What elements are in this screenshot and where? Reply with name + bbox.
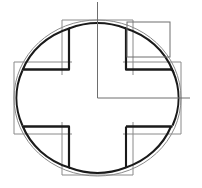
inner-circle-left-arc <box>17 71 23 126</box>
technical-drawing-canvas <box>0 0 202 188</box>
inner-circle-bottom-arc <box>69 168 126 173</box>
outer-cross-bottom-arm <box>62 122 133 175</box>
outer-cross-left-arm <box>14 62 72 134</box>
drawing-svg <box>0 0 202 188</box>
